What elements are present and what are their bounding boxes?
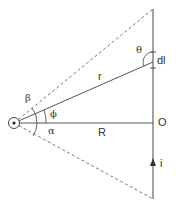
label-phi: ϕ — [50, 108, 57, 119]
label-beta: β — [25, 92, 31, 103]
label-R: R — [98, 127, 106, 138]
label-current-i: i — [160, 158, 162, 169]
r-line — [14, 62, 153, 123]
dashed-line-top — [14, 9, 153, 123]
dashed-line-bottom — [14, 123, 153, 199]
phi-arc — [44, 110, 46, 123]
field-point-dot-icon — [12, 121, 15, 124]
label-r: r — [98, 71, 102, 82]
label-theta: θ — [136, 44, 142, 55]
label-O: O — [158, 117, 167, 128]
label-alpha: α — [48, 125, 55, 136]
diagram-lines — [0, 0, 176, 206]
label-dl: dl — [157, 55, 166, 66]
beta-arc — [32, 108, 37, 123]
current-arrow-icon — [150, 158, 156, 166]
biot-savart-diagram: β ϕ α θ r R O dl i — [0, 0, 176, 206]
